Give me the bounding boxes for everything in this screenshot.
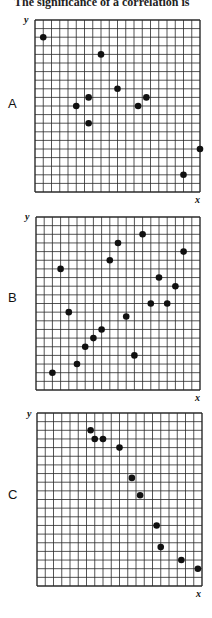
data-point: [195, 565, 202, 572]
y-axis-label-c: y: [27, 408, 31, 419]
data-point: [87, 427, 94, 434]
data-point: [153, 522, 160, 529]
scatter-panel-c: C y x: [0, 0, 212, 618]
scatter-plot-c: [37, 413, 202, 586]
data-point: [91, 436, 98, 443]
data-point: [116, 444, 123, 451]
data-point: [129, 475, 136, 482]
data-point: [100, 436, 107, 443]
panel-label-c: C: [8, 487, 17, 502]
data-point: [157, 544, 164, 551]
x-axis-label-c: x: [196, 588, 201, 599]
data-point: [137, 492, 144, 499]
data-point: [178, 557, 185, 564]
